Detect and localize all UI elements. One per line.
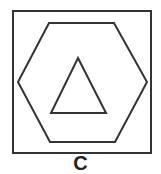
figure-diagram bbox=[0, 0, 161, 174]
figure-caption: C bbox=[0, 152, 161, 174]
hexagon bbox=[18, 23, 147, 142]
outer-square bbox=[13, 11, 151, 153]
inner-triangle bbox=[51, 58, 106, 113]
